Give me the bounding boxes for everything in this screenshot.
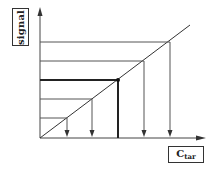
down-arrow-icon: [168, 130, 173, 137]
y-axis-arrow-icon: [38, 7, 43, 16]
x-axis-label: Ctar: [176, 148, 195, 161]
x-axis-label-subscript: tar: [184, 152, 195, 161]
y-axis-label-box: signal: [12, 8, 29, 46]
y-axis-label: signal: [15, 9, 26, 44]
sample-point-icon: [116, 78, 120, 82]
x-axis-label-box: Ctar: [168, 146, 204, 163]
down-arrow-icon: [65, 130, 70, 137]
x-axis: [40, 136, 206, 141]
x-axis-arrow-icon: [196, 136, 206, 141]
down-arrow-icon: [90, 130, 95, 137]
down-arrow-icon: [142, 130, 147, 137]
